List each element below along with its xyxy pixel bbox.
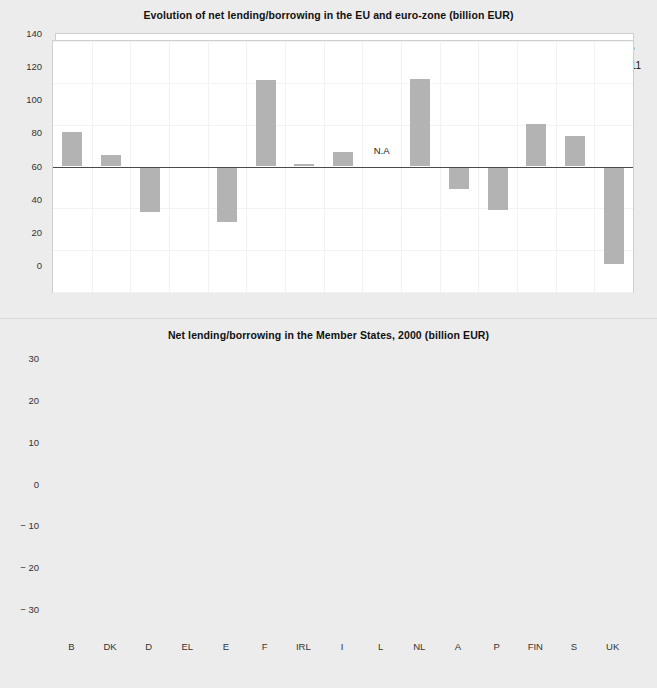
- y-tick-label: − 10: [1, 520, 39, 531]
- x-tick-label-UK: UK: [606, 641, 619, 652]
- bar-I[interactable]: [333, 152, 353, 166]
- line-chart-y-axis: 020406080100120140: [0, 33, 48, 265]
- x-tick-label-FIN: FIN: [528, 641, 543, 652]
- grid-line-horizontal: [53, 41, 633, 42]
- y-tick-label: − 30: [1, 604, 39, 615]
- y-tick-label: 0: [1, 478, 39, 489]
- y-tick-label: 80: [2, 127, 42, 138]
- bar-UK[interactable]: [604, 167, 624, 265]
- bar-F[interactable]: [256, 80, 276, 166]
- bar-A[interactable]: [449, 167, 469, 189]
- bar-E[interactable]: [217, 167, 237, 222]
- y-tick-label: 140: [2, 28, 42, 39]
- grid-line-horizontal: [53, 250, 633, 251]
- x-tick-label-D: D: [145, 641, 152, 652]
- bar-P[interactable]: [488, 167, 508, 210]
- bar-chart-x-axis: BDKDELEFIRLILNLAPFINSUK: [52, 640, 632, 654]
- x-tick-label-B: B: [68, 641, 74, 652]
- x-tick-label-NL: NL: [413, 641, 425, 652]
- zero-axis-line: [53, 167, 633, 168]
- y-tick-label: − 20: [1, 562, 39, 573]
- x-tick-label-DK: DK: [103, 641, 116, 652]
- annotation-na-L: N.A: [374, 144, 390, 155]
- x-tick-label-I: I: [341, 641, 344, 652]
- bar-chart-panel: Net lending/borrowing in the Member Stat…: [0, 318, 657, 688]
- x-tick-label-P: P: [493, 641, 499, 652]
- chart-page: Evolution of net lending/borrowing in th…: [0, 0, 657, 688]
- y-tick-label: 60: [2, 160, 42, 171]
- x-tick-label-F: F: [262, 641, 268, 652]
- y-tick-label: 10: [1, 436, 39, 447]
- bar-D[interactable]: [140, 167, 160, 212]
- y-tick-label: 100: [2, 94, 42, 105]
- y-tick-label: 40: [2, 193, 42, 204]
- x-tick-label-EL: EL: [182, 641, 194, 652]
- bar-B[interactable]: [62, 132, 82, 167]
- x-tick-label-E: E: [223, 641, 229, 652]
- bar-FIN[interactable]: [526, 124, 546, 167]
- x-tick-label-A: A: [455, 641, 461, 652]
- bar-S[interactable]: [565, 136, 585, 167]
- bar-chart-plot-area: N.A: [52, 40, 634, 293]
- y-tick-label: 0: [2, 260, 42, 271]
- bar-chart-y-axis: 3020100− 10− 20− 30: [0, 358, 45, 609]
- y-tick-label: 20: [1, 394, 39, 405]
- x-tick-label-S: S: [571, 641, 577, 652]
- bar-NL[interactable]: [410, 79, 430, 166]
- bar-DK[interactable]: [101, 155, 121, 166]
- y-tick-label: 30: [1, 353, 39, 364]
- x-tick-label-IRL: IRL: [296, 641, 311, 652]
- grid-line-horizontal: [53, 292, 633, 293]
- y-tick-label: 20: [2, 226, 42, 237]
- bar-chart-title: Net lending/borrowing in the Member Stat…: [0, 329, 657, 341]
- x-tick-label-L: L: [378, 641, 383, 652]
- y-tick-label: 120: [2, 61, 42, 72]
- grid-line-horizontal: [53, 83, 633, 84]
- line-chart-title: Evolution of net lending/borrowing in th…: [0, 9, 657, 21]
